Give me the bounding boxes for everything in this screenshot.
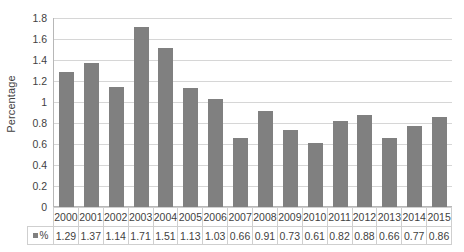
year-cell: 2012 xyxy=(352,207,377,226)
bar-slot xyxy=(54,18,79,207)
plot-area xyxy=(53,18,452,207)
y-axis-tick: 1.2 xyxy=(32,75,47,87)
legend-label: % xyxy=(40,230,49,241)
bar-slot xyxy=(178,18,203,207)
year-cell: 2001 xyxy=(78,207,103,226)
value-cell: 1.71 xyxy=(128,226,153,245)
bar-slot xyxy=(104,18,129,207)
y-axis-tick: 1.8 xyxy=(32,12,47,24)
year-cell: 2005 xyxy=(177,207,202,226)
y-axis-tick: 1 xyxy=(41,96,47,108)
square-marker-icon xyxy=(33,233,38,238)
table-row-values: % 1.291.371.141.711.511.131.030.660.910.… xyxy=(27,226,452,245)
year-cell: 2004 xyxy=(153,207,178,226)
year-cell: 2013 xyxy=(376,207,401,226)
y-axis-tick: 1.6 xyxy=(32,33,47,45)
bar-slot xyxy=(427,18,452,207)
data-table: 2000200120022003200420052006200720082009… xyxy=(27,207,452,245)
year-cell: 2008 xyxy=(252,207,277,226)
bar-chart-figure: Percentage 1.81.61.41.210.80.60.40.20 20… xyxy=(0,0,464,252)
value-cells: 1.291.371.141.711.511.131.030.660.910.73… xyxy=(53,226,452,245)
bar-slot xyxy=(253,18,278,207)
value-cell: 0.66 xyxy=(227,226,252,245)
y-axis-tick: 0.4 xyxy=(32,159,47,171)
bar-slot xyxy=(278,18,303,207)
bar[interactable] xyxy=(333,121,348,207)
y-axis-tick: 0.8 xyxy=(32,117,47,129)
bar[interactable] xyxy=(59,72,74,207)
value-cell: 1.13 xyxy=(177,226,202,245)
bar-slot xyxy=(377,18,402,207)
value-cell: 0.82 xyxy=(327,226,352,245)
value-cell: 1.29 xyxy=(53,226,78,245)
y-axis-tick: 1.4 xyxy=(32,54,47,66)
value-cell: 0.91 xyxy=(252,226,277,245)
y-axis-title-label: Percentage xyxy=(5,75,17,132)
bar-slot xyxy=(203,18,228,207)
bar[interactable] xyxy=(407,126,422,207)
value-cell: 0.77 xyxy=(401,226,426,245)
bar[interactable] xyxy=(208,99,223,207)
value-cell: 1.51 xyxy=(153,226,178,245)
value-cell: 0.86 xyxy=(426,226,452,245)
value-cell: 1.14 xyxy=(103,226,128,245)
year-cell: 2015 xyxy=(426,207,452,226)
value-cell: 0.73 xyxy=(277,226,302,245)
year-cell: 2010 xyxy=(302,207,327,226)
year-cell: 2000 xyxy=(53,207,78,226)
value-cell: 1.37 xyxy=(78,226,103,245)
year-cell: 2014 xyxy=(401,207,426,226)
bar[interactable] xyxy=(183,88,198,207)
y-axis-tick-labels: 1.81.61.41.210.80.60.40.20 xyxy=(22,18,51,207)
bar[interactable] xyxy=(432,117,447,207)
year-cells: 2000200120022003200420052006200720082009… xyxy=(53,207,452,226)
table-row-years: 2000200120022003200420052006200720082009… xyxy=(27,207,452,226)
bar[interactable] xyxy=(258,111,273,207)
year-cell: 2002 xyxy=(103,207,128,226)
y-axis-tick: 0.2 xyxy=(32,180,47,192)
year-cell: 2011 xyxy=(327,207,352,226)
value-cell: 0.88 xyxy=(352,226,377,245)
bar-slot xyxy=(402,18,427,207)
bar-slot xyxy=(328,18,353,207)
value-cell: 0.66 xyxy=(376,226,401,245)
bar-slot xyxy=(154,18,179,207)
bar-slot xyxy=(303,18,328,207)
year-cell: 2007 xyxy=(227,207,252,226)
bar[interactable] xyxy=(357,115,372,207)
y-axis-tick: 0.6 xyxy=(32,138,47,150)
bar[interactable] xyxy=(158,48,173,207)
year-cell: 2003 xyxy=(128,207,153,226)
bar[interactable] xyxy=(283,130,298,207)
legend-entry: % xyxy=(27,226,53,245)
table-row-header-blank xyxy=(27,207,53,226)
year-cell: 2009 xyxy=(277,207,302,226)
bar[interactable] xyxy=(109,87,124,207)
y-axis-title: Percentage xyxy=(0,0,22,207)
value-cell: 0.61 xyxy=(302,226,327,245)
year-cell: 2006 xyxy=(202,207,227,226)
bar-slot xyxy=(228,18,253,207)
bars-layer xyxy=(54,18,452,207)
value-cell: 1.03 xyxy=(202,226,227,245)
bar-slot xyxy=(79,18,104,207)
bar[interactable] xyxy=(308,143,323,207)
bar-slot xyxy=(129,18,154,207)
bar[interactable] xyxy=(84,63,99,207)
bar-slot xyxy=(353,18,378,207)
bar[interactable] xyxy=(233,138,248,207)
bar[interactable] xyxy=(382,138,397,207)
bar[interactable] xyxy=(134,27,149,207)
